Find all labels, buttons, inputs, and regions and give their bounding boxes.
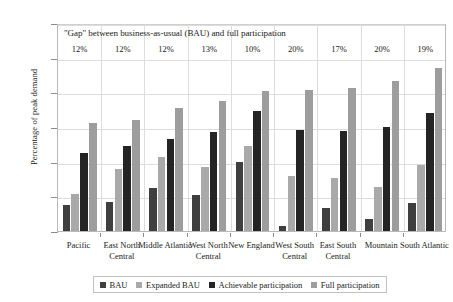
bar <box>63 205 71 231</box>
bar <box>106 202 114 231</box>
bar <box>365 219 373 231</box>
bar <box>262 91 270 231</box>
legend-label: Full participation <box>321 280 380 290</box>
x-tick-mark <box>273 233 274 237</box>
legend-swatch-icon <box>100 282 106 288</box>
bar <box>426 113 434 231</box>
legend-item: Achievable participation <box>209 280 302 290</box>
gap-label: 17% <box>331 44 347 54</box>
legend-label: Expanded BAU <box>146 280 200 290</box>
legend-item: BAU <box>100 280 127 290</box>
gap-label: 12% <box>158 44 174 54</box>
bar <box>167 139 175 231</box>
gap-annotation-row: 12%12%12%13%10%20%17%20%19% <box>58 44 445 56</box>
gap-label: 12% <box>115 44 131 54</box>
bar <box>331 178 339 231</box>
bar <box>115 169 123 231</box>
x-tick-label: South Atlantic <box>396 240 452 251</box>
bar <box>89 123 97 231</box>
x-tick-mark <box>143 233 144 237</box>
bar <box>322 208 330 231</box>
legend-item: Expanded BAU <box>136 280 200 290</box>
bar <box>417 165 425 231</box>
bar <box>305 90 313 231</box>
x-tick-mark <box>403 233 404 237</box>
bar <box>236 162 244 231</box>
x-tick-mark <box>230 233 231 237</box>
bar <box>348 88 356 231</box>
bar <box>201 167 209 231</box>
gap-label: 12% <box>72 44 88 54</box>
x-tick-mark <box>316 233 317 237</box>
gridline <box>58 60 445 61</box>
bar <box>253 111 261 231</box>
bar <box>279 226 287 231</box>
gap-label: 10% <box>245 44 261 54</box>
x-tick-mark <box>187 233 188 237</box>
gap-label: 19% <box>418 44 434 54</box>
bar <box>340 131 348 231</box>
bar <box>392 81 400 231</box>
gridline <box>58 25 445 26</box>
bar <box>296 130 304 231</box>
x-tick-mark <box>100 233 101 237</box>
bar <box>288 176 296 231</box>
gap-label: 20% <box>374 44 390 54</box>
bar <box>71 194 79 231</box>
gridline <box>58 94 445 95</box>
bar <box>210 132 218 231</box>
chart-legend: BAUExpanded BAUAchievable participationF… <box>93 276 387 293</box>
bar <box>219 101 227 231</box>
bar <box>435 68 443 231</box>
chart-figure: Percentage of peak demand 0%5%10%15%20%2… <box>0 0 453 302</box>
bar <box>374 187 382 231</box>
y-axis-title: Percentage of peak demand <box>29 17 39 217</box>
bar <box>383 127 391 231</box>
bar <box>158 157 166 231</box>
bar <box>192 195 200 231</box>
legend-swatch-icon <box>311 282 317 288</box>
plot-area: "Gap" between business-as-usual (BAU) an… <box>57 24 446 232</box>
bar <box>132 120 140 231</box>
bar <box>244 146 252 231</box>
legend-item: Full participation <box>311 280 379 290</box>
bar <box>149 188 157 231</box>
chart-title: "Gap" between business-as-usual (BAU) an… <box>64 28 286 38</box>
bar <box>408 203 416 231</box>
x-tick-mark <box>360 233 361 237</box>
legend-label: BAU <box>110 280 128 290</box>
gap-label: 13% <box>201 44 217 54</box>
legend-swatch-icon <box>136 282 142 288</box>
legend-label: Achievable participation <box>219 280 303 290</box>
legend-swatch-icon <box>209 282 215 288</box>
bar <box>80 153 88 231</box>
bar <box>175 108 183 231</box>
gap-label: 20% <box>288 44 304 54</box>
bar <box>123 146 131 231</box>
